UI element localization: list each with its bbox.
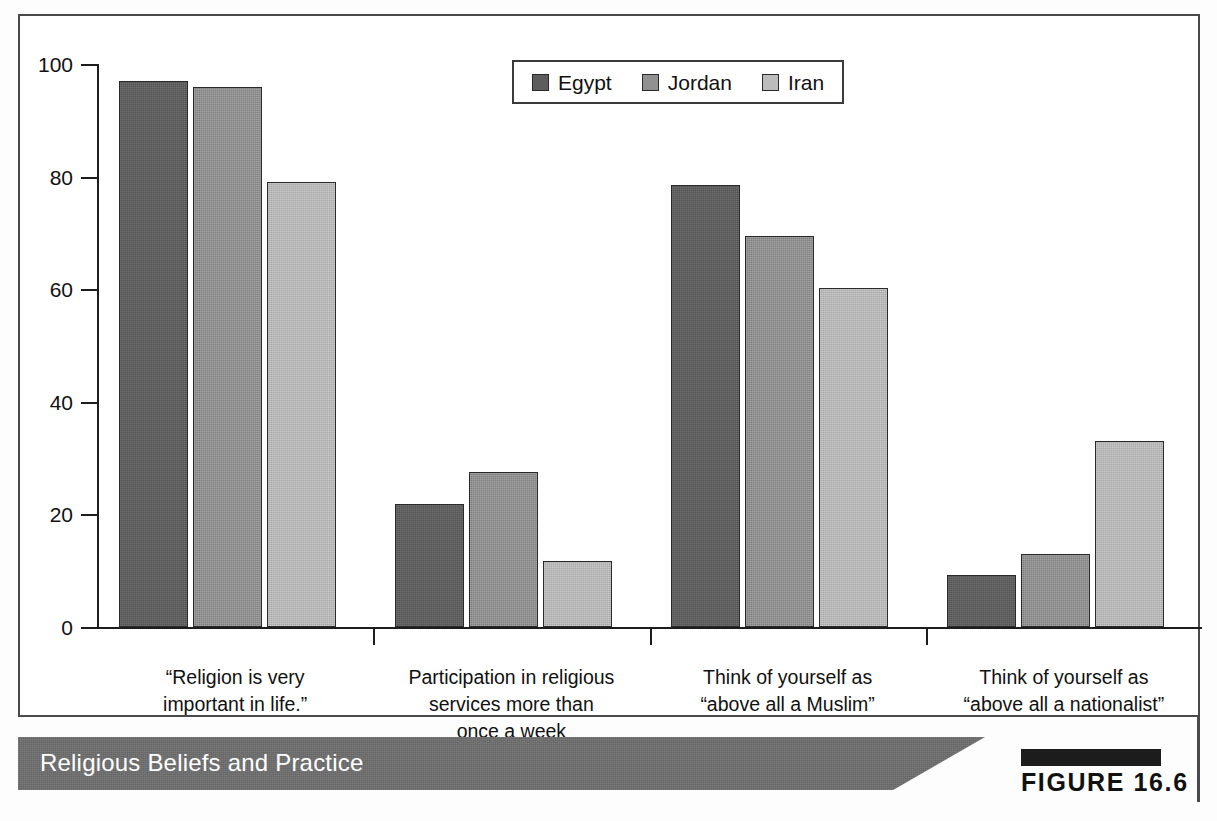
- bar-jordan-cat4: [1021, 554, 1090, 627]
- figure-tag-bar: [1021, 749, 1161, 766]
- bar-egypt-cat2: [395, 504, 464, 627]
- category-label-1: “Religion is veryimportant in life.”: [97, 664, 373, 718]
- x-axis-group-tick: [650, 629, 652, 645]
- category-label-3: Think of yourself as“above all a Muslim”: [650, 664, 926, 718]
- figure-number-label: FIGURE 16.6: [1021, 770, 1189, 795]
- y-axis-tick: [81, 64, 97, 66]
- y-axis-tick-label: 20: [20, 503, 73, 527]
- legend-label-jordan: Jordan: [668, 72, 732, 93]
- figure-container: Egypt Jordan Iran 020406080100 “Religion…: [0, 0, 1217, 821]
- y-axis-tick: [81, 402, 97, 404]
- y-axis-tick-label: 80: [20, 166, 73, 190]
- y-axis-tick-label: 40: [20, 391, 73, 415]
- bar-jordan-cat2: [469, 472, 538, 627]
- legend-item-egypt: Egypt: [532, 72, 612, 93]
- chart-legend: Egypt Jordan Iran: [512, 60, 844, 104]
- y-axis-tick-label: 100: [20, 53, 73, 77]
- bar-jordan-cat3: [745, 236, 814, 627]
- bar-iran-cat2: [543, 561, 612, 627]
- category-label-4: Think of yourself as“above all a nationa…: [926, 664, 1202, 718]
- bar-egypt-cat3: [671, 185, 740, 627]
- x-axis-group-tick: [926, 629, 928, 645]
- y-axis-line: [97, 64, 99, 629]
- legend-swatch-egypt: [532, 74, 549, 91]
- y-axis-tick: [81, 514, 97, 516]
- y-axis-tick: [81, 289, 97, 291]
- legend-label-egypt: Egypt: [558, 72, 612, 93]
- bar-iran-cat3: [819, 288, 888, 627]
- bar-egypt-cat1: [119, 81, 188, 627]
- chart-frame: Egypt Jordan Iran 020406080100 “Religion…: [18, 14, 1200, 717]
- banner-title: Religious Beliefs and Practice: [40, 751, 364, 775]
- bar-jordan-cat1: [193, 87, 262, 627]
- legend-swatch-jordan: [642, 74, 659, 91]
- legend-label-iran: Iran: [788, 72, 824, 93]
- y-axis-tick: [81, 627, 97, 629]
- y-axis-tick-label: 0: [20, 616, 73, 640]
- legend-item-iran: Iran: [762, 72, 824, 93]
- bar-egypt-cat4: [947, 575, 1016, 627]
- y-axis-tick: [81, 177, 97, 179]
- x-axis-group-tick: [373, 629, 375, 645]
- category-label-2: Participation in religiousservices more …: [373, 664, 649, 745]
- figure-right-rule: [1197, 716, 1200, 802]
- bar-iran-cat4: [1095, 441, 1164, 627]
- legend-swatch-iran: [762, 74, 779, 91]
- bar-iran-cat1: [267, 182, 336, 627]
- legend-item-jordan: Jordan: [642, 72, 732, 93]
- y-axis-tick-label: 60: [20, 278, 73, 302]
